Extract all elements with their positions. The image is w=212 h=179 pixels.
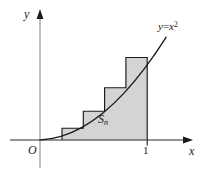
- curve-exponent: 2: [174, 20, 178, 29]
- region-label-subscript: n: [104, 118, 108, 127]
- origin-label: O: [28, 144, 37, 156]
- x-axis-label: x: [189, 145, 194, 157]
- x-axis-arrowhead: [183, 137, 193, 144]
- x-tick-one-label: 1: [143, 145, 149, 156]
- y-axis-arrowhead: [37, 9, 44, 19]
- curve-equation-label: y=x2: [158, 21, 178, 32]
- y-axis-label: y: [24, 8, 29, 20]
- region-label: Sn: [98, 113, 108, 127]
- riemann-sum-figure: y x O 1 Sn y=x2: [0, 0, 212, 179]
